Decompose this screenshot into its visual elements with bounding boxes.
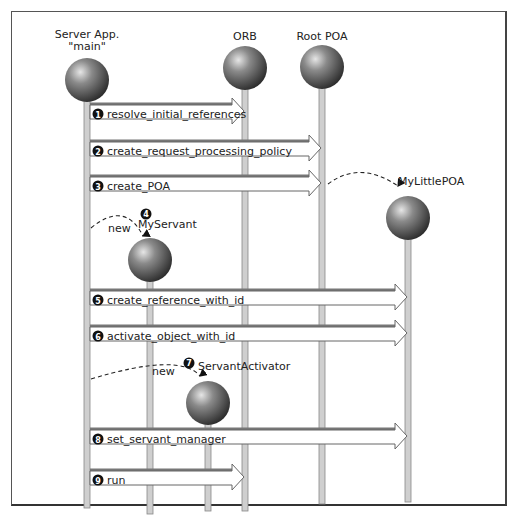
lifeline-server: [84, 80, 90, 508]
object-label-activator: ServantActivator: [198, 360, 291, 373]
object-sphere-orb: [223, 46, 267, 90]
object-label-orb: ORB: [233, 30, 257, 43]
message-label-5: create_reference_with_id: [107, 294, 244, 307]
object-sphere-rootpoa: [300, 45, 344, 89]
step-number-2: 2: [95, 148, 101, 157]
object-sphere-myservant: [128, 238, 172, 282]
sequence-diagram: 1resolve_initial_references2create_reque…: [0, 0, 519, 529]
message-label-2: create_request_processing_policy: [107, 145, 292, 158]
object-sphere-activator: [186, 381, 230, 425]
step-number-9: 9: [95, 477, 101, 486]
step-number-7: 7: [186, 359, 192, 368]
object-sphere-mylittlepoa: [386, 196, 430, 240]
message-label-3: create_POA: [107, 180, 171, 193]
message-label-4: new: [108, 222, 131, 235]
create-arc-activator: [91, 365, 200, 379]
object-sphere-server: [65, 58, 109, 102]
message-label-8: set_servant_manager: [107, 433, 226, 446]
object-label-mylittlepoa: MyLittlePOA: [398, 175, 465, 188]
message-label-7: new: [152, 365, 175, 378]
object-label-myservant: MyServant: [138, 218, 197, 231]
object-label-server: "main": [68, 40, 106, 53]
object-label-rootpoa: Root POA: [296, 30, 348, 43]
message-label-1: resolve_initial_references: [107, 108, 247, 121]
step-number-3: 3: [95, 183, 101, 192]
message-label-9: run: [107, 474, 125, 487]
create-arc-mylittlepoa: [328, 172, 398, 186]
step-number-5: 5: [95, 297, 101, 306]
step-number-6: 6: [95, 333, 101, 342]
step-number-8: 8: [95, 436, 101, 445]
lifeline-mylittlepoa: [405, 218, 411, 502]
message-label-6: activate_object_with_id: [107, 330, 235, 343]
step-number-1: 1: [95, 111, 101, 120]
